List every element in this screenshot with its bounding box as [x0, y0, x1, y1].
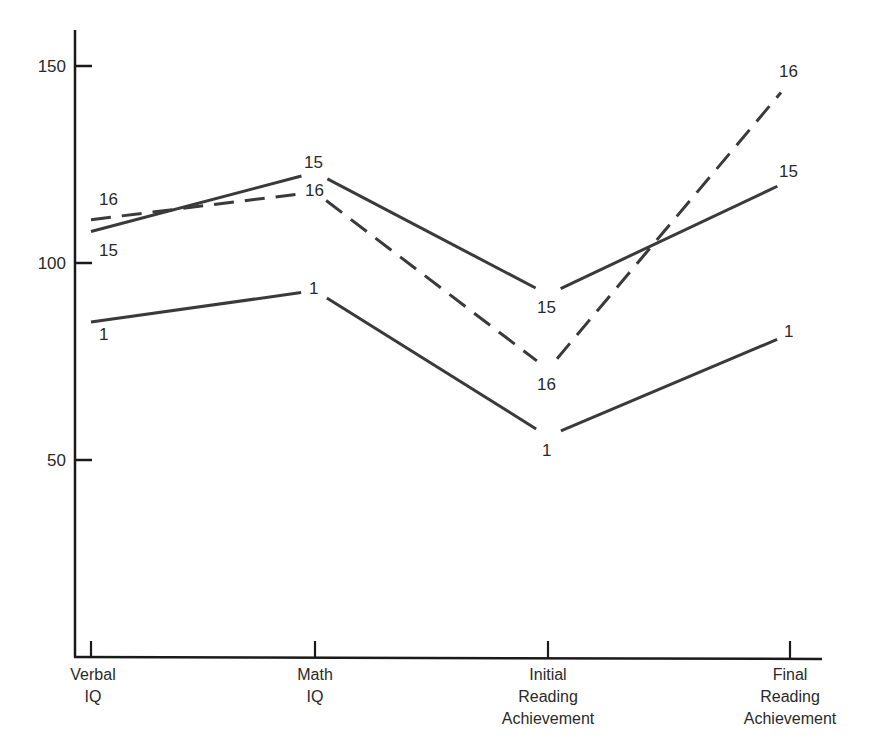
series-point-label: 15 — [99, 241, 118, 260]
series-point-label: 1 — [542, 441, 551, 460]
series-point-label: 16 — [779, 62, 798, 81]
series-segment — [91, 293, 301, 323]
series-segment — [91, 176, 301, 232]
series-segment — [327, 179, 535, 288]
y-tick-label: 50 — [47, 451, 66, 470]
x-category-label: IQ — [307, 688, 324, 705]
axes — [74, 30, 822, 659]
y-tick-label: 100 — [38, 254, 66, 273]
y-tick-label: 150 — [38, 57, 66, 76]
x-category-label: Achievement — [502, 710, 595, 727]
series-1 — [91, 293, 777, 431]
y-ticks: 50100150 — [38, 57, 92, 470]
x-category-label: IQ — [85, 688, 102, 705]
series-point-label: 1 — [784, 322, 793, 341]
series-point-label: 15 — [537, 298, 556, 317]
series-point-label: 16 — [305, 181, 324, 200]
series-point-label: 15 — [779, 162, 798, 181]
series-segment — [557, 92, 781, 358]
point-labels: 11111515151516161616 — [99, 62, 798, 461]
series-segment — [91, 194, 301, 220]
x-ticks: VerbalIQMathIQInitialReadingAchievementF… — [70, 641, 836, 727]
x-category-label: Reading — [518, 688, 578, 705]
series-16 — [91, 92, 781, 360]
x-category-label: Verbal — [70, 666, 115, 683]
series-segment — [561, 186, 778, 288]
series-point-label: 16 — [99, 190, 118, 209]
series-15 — [91, 176, 777, 289]
series-point-label: 1 — [309, 279, 318, 298]
line-chart: 50100150 VerbalIQMathIQInitialReadingAch… — [0, 0, 878, 751]
x-category-label: Reading — [760, 688, 820, 705]
series-segment — [561, 339, 777, 431]
x-axis — [74, 657, 822, 659]
series-segment — [326, 201, 537, 361]
x-category-label: Math — [297, 666, 333, 683]
series-point-label: 1 — [99, 325, 108, 344]
series-point-label: 15 — [304, 153, 323, 172]
series-segment — [327, 298, 536, 429]
x-category-label: Final — [773, 666, 808, 683]
x-category-label: Initial — [529, 666, 566, 683]
series-lines — [91, 92, 781, 430]
x-category-label: Achievement — [744, 710, 837, 727]
series-point-label: 16 — [537, 375, 556, 394]
